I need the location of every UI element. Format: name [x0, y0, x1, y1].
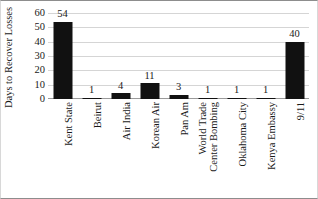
plot-area: 541411311140	[48, 13, 309, 99]
bar	[111, 93, 130, 99]
x-category-label-line: Kenya Embassy	[266, 102, 277, 170]
x-category-label: World TradeCenter Bombing	[193, 102, 222, 194]
x-category-label-text: Kent State	[63, 102, 74, 146]
x-category-label-line: Korean Air	[150, 102, 161, 149]
x-category-label-line: 9/11	[295, 102, 306, 120]
x-category-label: Beirut	[77, 102, 106, 194]
x-category-label: Korean Air	[135, 102, 164, 194]
x-category-label: 9/11	[280, 102, 309, 194]
y-tick-label: 50	[35, 22, 46, 33]
bar-value-label: 1	[89, 85, 94, 96]
bar-value-label: 11	[144, 71, 154, 82]
y-tick-label: 10	[35, 79, 46, 90]
bar-value-label: 1	[205, 85, 210, 96]
y-axis-title-text: Days to Recover Losses	[4, 6, 15, 107]
bar-slot: 54	[48, 13, 77, 99]
x-category-label-text: Air India	[121, 102, 132, 140]
x-category-label-text: Pan Am	[179, 102, 190, 136]
bar-value-label: 54	[57, 9, 68, 20]
bar-value-label: 4	[118, 81, 123, 92]
bar	[198, 98, 217, 99]
x-category-label-line: Center Bombing	[208, 102, 219, 172]
x-category-label-line: Beirut	[92, 102, 103, 128]
bar	[53, 22, 72, 99]
x-category-label: Oklahoma City	[222, 102, 251, 194]
bar-slot: 1	[193, 13, 222, 99]
x-category-label: Air India	[106, 102, 135, 194]
bar	[169, 95, 188, 99]
y-axis-tick-labels: 6050403020100	[19, 13, 45, 99]
x-category-label-line: Air India	[121, 102, 132, 140]
bar	[285, 42, 304, 99]
x-category-label: Pan Am	[164, 102, 193, 194]
x-category-label-text: 9/11	[295, 102, 306, 120]
y-tick-label: 60	[35, 8, 46, 19]
x-axis-category-labels: Kent StateBeirutAir IndiaKorean AirPan A…	[48, 102, 309, 194]
bar-value-label: 3	[176, 82, 181, 93]
bar	[82, 98, 101, 99]
bars-layer: 541411311140	[48, 13, 309, 99]
x-category-label-text: Kenya Embassy	[266, 102, 277, 170]
bar	[140, 83, 159, 99]
x-category-label-text: World TradeCenter Bombing	[197, 102, 219, 172]
bar-value-label: 40	[289, 29, 300, 40]
x-category-label: Kent State	[48, 102, 77, 194]
bar-slot: 1	[251, 13, 280, 99]
y-tick-label: 0	[40, 94, 45, 105]
bar-chart-figure: Days to Recover Losses 6050403020100 541…	[0, 0, 318, 199]
bar-slot: 3	[164, 13, 193, 99]
y-tick-label: 30	[35, 51, 46, 62]
bar-slot: 4	[106, 13, 135, 99]
x-category-label: Kenya Embassy	[251, 102, 280, 194]
y-axis-title: Days to Recover Losses	[1, 1, 17, 113]
x-category-label-line: Kent State	[63, 102, 74, 146]
y-tick-label: 20	[35, 65, 46, 76]
bar-slot: 11	[135, 13, 164, 99]
y-tick-label: 40	[35, 36, 46, 47]
bar-value-label: 1	[234, 85, 239, 96]
bar-slot: 40	[280, 13, 309, 99]
x-category-label-line: Pan Am	[179, 102, 190, 136]
bar-slot: 1	[77, 13, 106, 99]
x-category-label-text: Beirut	[92, 102, 103, 128]
x-category-label-line: Oklahoma City	[237, 102, 248, 166]
bar-value-label: 1	[263, 85, 268, 96]
x-category-label-text: Oklahoma City	[237, 102, 248, 166]
x-category-label-line: World Trade	[197, 102, 208, 172]
x-category-label-text: Korean Air	[150, 102, 161, 149]
bar	[256, 98, 275, 99]
bar	[227, 98, 246, 99]
bar-slot: 1	[222, 13, 251, 99]
